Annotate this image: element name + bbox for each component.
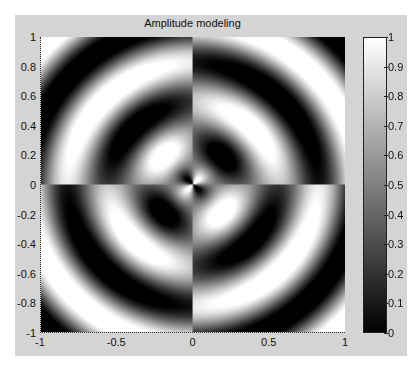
chart-title: Amplitude modeling <box>40 17 345 29</box>
y-tick-label: 0.6 <box>21 90 36 102</box>
y-tick-label: 0.4 <box>21 120 36 132</box>
colorbar-tick-label: 0.7 <box>388 120 403 132</box>
x-tick-label: -1 <box>35 336 45 348</box>
y-tick-label: -0.6 <box>17 268 36 280</box>
colorbar-tick-label: 0.8 <box>388 90 403 102</box>
colorbar-tick-label: 0.9 <box>388 61 403 73</box>
colorbar-tick-label: 0.5 <box>388 179 403 191</box>
y-tick-label: 0.2 <box>21 149 36 161</box>
colorbar-tick-label: 0.2 <box>388 268 403 280</box>
x-tick-label: 0 <box>189 336 195 348</box>
colorbar-gradient <box>364 38 386 332</box>
y-tick-label: -0.4 <box>17 238 36 250</box>
heatmap-image <box>41 37 345 332</box>
colorbar-tick-label: 0.1 <box>388 297 403 309</box>
heatmap-plot-area <box>40 37 345 333</box>
colorbar-tick-label: 0.3 <box>388 238 403 250</box>
y-tick-label: -0.8 <box>17 297 36 309</box>
colorbar-tick-label: 0 <box>388 327 394 339</box>
colorbar-tick-label: 1 <box>388 31 394 43</box>
y-tick-label: 0.8 <box>21 61 36 73</box>
y-tick-label: 1 <box>30 31 36 43</box>
colorbar-tick-label: 0.6 <box>388 149 403 161</box>
y-tick-label: -0.2 <box>17 209 36 221</box>
x-tick-label: 1 <box>342 336 348 348</box>
x-tick-label: -0.5 <box>107 336 126 348</box>
colorbar-tick-label: 0.4 <box>388 209 403 221</box>
y-tick-label: 0 <box>30 179 36 191</box>
x-tick-label: 0.5 <box>261 336 276 348</box>
